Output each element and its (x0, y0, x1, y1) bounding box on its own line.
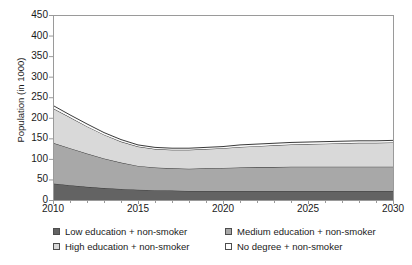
legend-item[interactable]: Low education + non-smoker (53, 224, 225, 239)
x-tick-label: 2030 (373, 204, 412, 214)
legend-label: Low education + non-smoker (65, 226, 187, 237)
x-axis-tick-labels: 20102015202020252030 (0, 204, 412, 218)
x-tick-label: 2025 (288, 204, 328, 214)
x-tick-label: 2015 (118, 204, 158, 214)
x-tick-label: 2020 (203, 204, 243, 214)
legend-swatch-icon (53, 243, 60, 250)
legend-swatch-icon (225, 243, 232, 250)
y-tick-label: 350 (18, 51, 48, 61)
legend-label: High education + non-smoker (65, 241, 189, 252)
y-tick-label: 250 (18, 92, 48, 102)
y-axis-tick-labels: 050100150200250300350400450 (16, 0, 48, 265)
y-tick-label: 450 (18, 10, 48, 20)
x-tick-label: 2010 (33, 204, 73, 214)
legend-label: No degree + non-smoker (237, 241, 342, 252)
y-tick-label: 300 (18, 72, 48, 82)
legend-item[interactable]: No degree + non-smoker (225, 239, 393, 254)
legend-item[interactable]: High education + non-smoker (53, 239, 225, 254)
legend-swatch-icon (53, 228, 60, 235)
chart-legend: Low education + non-smokerMedium educati… (53, 224, 393, 254)
stacked-area-chart-figure: Population (in 1000) 0501001502002503003… (0, 0, 412, 265)
y-tick-label: 400 (18, 31, 48, 41)
y-tick-label: 100 (18, 154, 48, 164)
legend-label: Medium education + non-smoker (237, 226, 376, 237)
y-tick-label: 200 (18, 113, 48, 123)
y-tick-label: 150 (18, 133, 48, 143)
y-tick-label: 50 (18, 174, 48, 184)
legend-swatch-icon (225, 228, 232, 235)
legend-item[interactable]: Medium education + non-smoker (225, 224, 393, 239)
